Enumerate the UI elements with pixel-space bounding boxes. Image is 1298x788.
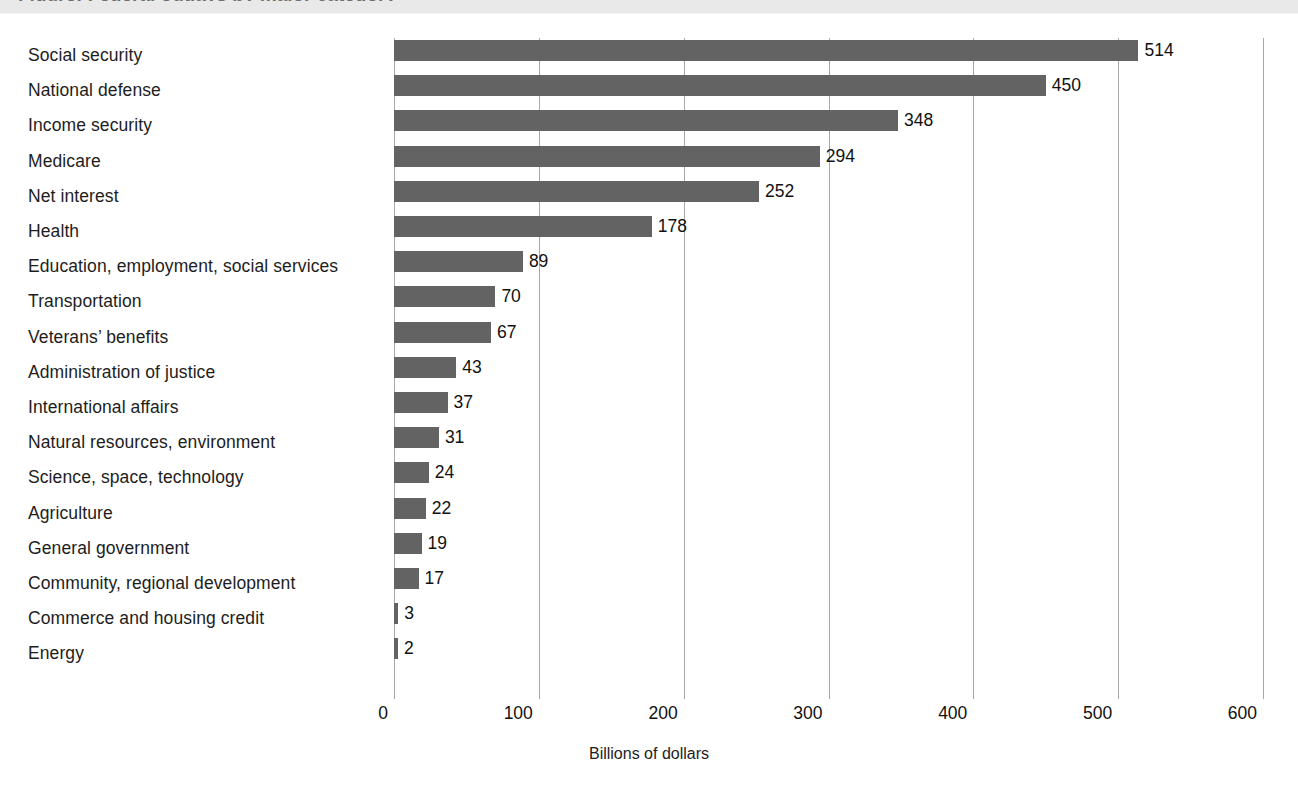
bar[interactable] (394, 75, 1046, 96)
bar[interactable] (394, 603, 398, 624)
bar[interactable] (394, 462, 429, 483)
bar-value-label: 348 (904, 108, 933, 133)
bar-value-label: 37 (454, 390, 473, 415)
bar-row[interactable]: Transportation70 (0, 284, 1298, 319)
category-label: Community, regional development (28, 566, 295, 601)
category-label: Commerce and housing credit (28, 601, 264, 636)
x-axis-title-text: Billions of dollars (589, 745, 709, 763)
bar-row[interactable]: Science, space, technology24 (0, 460, 1298, 495)
bar[interactable] (394, 568, 419, 589)
axis-baseline (394, 699, 1264, 700)
bar-row[interactable]: General government19 (0, 531, 1298, 566)
bar-value-label: 252 (765, 179, 794, 204)
category-label: Net interest (28, 179, 119, 214)
bar-row[interactable]: Commerce and housing credit3 (0, 601, 1298, 636)
bar-value-label: 2 (404, 636, 414, 661)
bar[interactable] (394, 146, 820, 167)
bar[interactable] (394, 533, 422, 554)
bar-value-label: 24 (435, 460, 454, 485)
category-label: Education, employment, social services (28, 249, 338, 284)
category-label: Medicare (28, 144, 101, 179)
bar-row[interactable]: Agriculture22 (0, 496, 1298, 531)
bar-row[interactable]: Natural resources, environment31 (0, 425, 1298, 460)
bar-value-label: 70 (501, 284, 520, 309)
bar-row[interactable]: Community, regional development17 (0, 566, 1298, 601)
bar-value-label: 22 (432, 496, 451, 521)
x-tick-label: 300 (749, 703, 823, 724)
bar[interactable] (394, 251, 523, 272)
bar-row[interactable]: Health178 (0, 214, 1298, 249)
bar-value-label: 178 (658, 214, 687, 239)
bar[interactable] (394, 322, 491, 343)
category-label: National defense (28, 73, 161, 108)
bar-row[interactable]: Net interest252 (0, 179, 1298, 214)
bar[interactable] (394, 181, 759, 202)
bar[interactable] (394, 638, 398, 659)
chart-page: Figure: Federal outlays by major categor… (0, 0, 1298, 788)
x-tick-label: 100 (459, 703, 533, 724)
bar-value-label: 17 (425, 566, 444, 591)
bar-value-label: 514 (1144, 38, 1173, 63)
bar[interactable] (394, 40, 1138, 61)
category-label: Agriculture (28, 496, 113, 531)
bar-row[interactable]: National defense450 (0, 73, 1298, 108)
bar-row[interactable]: International affairs37 (0, 390, 1298, 425)
bar-value-label: 43 (462, 355, 481, 380)
bar[interactable] (394, 216, 652, 237)
category-label: General government (28, 531, 189, 566)
bar-chart-plot-area: Social security514National defense450Inc… (0, 0, 1298, 788)
category-label: Social security (28, 38, 142, 73)
category-label: Science, space, technology (28, 460, 244, 495)
category-label: Natural resources, environment (28, 425, 275, 460)
bar-row[interactable]: Income security348 (0, 108, 1298, 143)
x-tick-label: 200 (604, 703, 678, 724)
bar-value-label: 89 (529, 249, 548, 274)
bar-value-label: 3 (404, 601, 414, 626)
category-label: Veterans’ benefits (28, 320, 168, 355)
bar[interactable] (394, 357, 456, 378)
bar-value-label: 67 (497, 320, 516, 345)
category-label: Administration of justice (28, 355, 215, 390)
bar-row[interactable]: Social security514 (0, 38, 1298, 73)
category-label: Health (28, 214, 79, 249)
category-label: Energy (28, 636, 84, 671)
bar[interactable] (394, 110, 898, 131)
bar[interactable] (394, 286, 495, 307)
bar-row[interactable]: Administration of justice43 (0, 355, 1298, 390)
bar-value-label: 294 (826, 144, 855, 169)
category-label: Income security (28, 108, 152, 143)
bar-value-label: 19 (428, 531, 447, 556)
bar-value-label: 31 (445, 425, 464, 450)
x-tick-label: 600 (1183, 703, 1257, 724)
category-label: International affairs (28, 390, 179, 425)
bar-row[interactable]: Education, employment, social services89 (0, 249, 1298, 284)
x-axis-title: Billions of dollars (0, 745, 1298, 763)
x-tick-label: 500 (1038, 703, 1112, 724)
bar-row[interactable]: Veterans’ benefits67 (0, 320, 1298, 355)
bar-row[interactable]: Energy2 (0, 636, 1298, 671)
category-label: Transportation (28, 284, 142, 319)
bar-value-label: 450 (1052, 73, 1081, 98)
bar[interactable] (394, 498, 426, 519)
bar[interactable] (394, 427, 439, 448)
x-tick-label: 400 (893, 703, 967, 724)
x-tick-label: 0 (314, 703, 388, 724)
bar[interactable] (394, 392, 448, 413)
bar-row[interactable]: Medicare294 (0, 144, 1298, 179)
